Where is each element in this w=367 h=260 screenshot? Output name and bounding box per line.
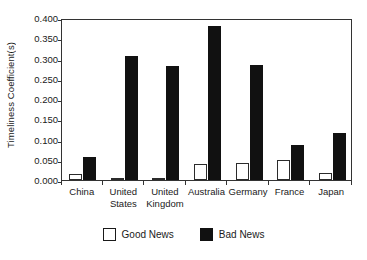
x-axis-tick-mark <box>61 181 62 185</box>
y-axis-tick-label: 0.150 <box>18 116 58 126</box>
bar-good-news <box>152 178 165 180</box>
y-axis-title-text: Timeliness Coefficient(s) <box>5 42 16 148</box>
legend-entry: Bad News <box>200 228 265 241</box>
x-axis-category-label: UnitedStates <box>103 186 145 209</box>
plot-inner <box>62 20 351 180</box>
x-axis-tick-mark <box>268 181 269 185</box>
bar-bad-news <box>250 65 263 180</box>
y-axis-tick-label: 0.200 <box>18 95 58 105</box>
plot-area <box>61 19 352 181</box>
bar-good-news <box>236 163 249 180</box>
y-axis-tick-label: 0.000 <box>18 176 58 186</box>
x-axis-category-label: Australia <box>186 186 228 198</box>
bar-group <box>187 20 229 180</box>
y-axis-tick-label: 0.100 <box>18 136 58 146</box>
bar-bad-news <box>208 26 221 180</box>
x-axis-label-line: United <box>103 186 145 198</box>
bar-good-news <box>69 174 82 180</box>
bar-good-news <box>194 164 207 180</box>
x-axis-category-label: UnitedKingdom <box>144 186 186 209</box>
x-axis-tick-mark <box>226 181 227 185</box>
y-axis-tick-label: 0.250 <box>18 75 58 85</box>
legend-swatch-good <box>103 228 116 241</box>
bar-good-news <box>111 178 124 180</box>
x-axis-tick-mark <box>309 181 310 185</box>
bar-bad-news <box>83 157 96 180</box>
x-axis-category-label: China <box>61 186 103 198</box>
bar-good-news <box>319 173 332 180</box>
x-axis-category-labels: ChinaUnitedStatesUnitedKingdomAustraliaG… <box>61 186 352 218</box>
bar-group <box>270 20 312 180</box>
y-axis-tick-labels: 0.0000.0500.1000.1500.2000.2500.3000.350… <box>18 19 58 181</box>
legend-label: Bad News <box>219 229 265 240</box>
legend-entry: Good News <box>103 228 174 241</box>
x-axis-label-line: Australia <box>186 186 228 198</box>
bar-group <box>228 20 270 180</box>
x-axis-label-line: United <box>144 186 186 198</box>
x-axis-label-line: France <box>269 186 311 198</box>
chart-legend: Good NewsBad News <box>0 228 367 241</box>
y-axis-tick-label: 0.350 <box>18 35 58 45</box>
x-axis-category-label: France <box>269 186 311 198</box>
bar-bad-news <box>291 145 304 180</box>
y-axis-tick-label: 0.400 <box>18 14 58 24</box>
y-axis-tick-label: 0.050 <box>18 156 58 166</box>
bar-chart-figure: Timeliness Coefficient(s) 0.0000.0500.10… <box>0 0 367 260</box>
x-axis-category-label: Germany <box>227 186 269 198</box>
y-axis-title: Timeliness Coefficient(s) <box>0 0 20 190</box>
x-axis-tick-mark <box>143 181 144 185</box>
x-axis-label-line: Kingdom <box>144 198 186 210</box>
x-axis-tick-marks <box>61 181 352 185</box>
y-axis-tick-label: 0.300 <box>18 55 58 65</box>
bar-bad-news <box>125 56 138 180</box>
x-axis-label-line: China <box>61 186 103 198</box>
x-axis-label-line: States <box>103 198 145 210</box>
bar-group <box>311 20 353 180</box>
bar-group <box>104 20 146 180</box>
bar-good-news <box>277 160 290 180</box>
x-axis-label-line: Germany <box>227 186 269 198</box>
legend-label: Good News <box>122 229 174 240</box>
legend-swatch-bad <box>200 228 213 241</box>
x-axis-category-label: Japan <box>310 186 352 198</box>
bar-group <box>62 20 104 180</box>
bar-bad-news <box>333 133 346 180</box>
x-axis-tick-mark <box>185 181 186 185</box>
bar-bad-news <box>166 66 179 180</box>
bar-group <box>145 20 187 180</box>
x-axis-tick-mark <box>102 181 103 185</box>
x-axis-label-line: Japan <box>310 186 352 198</box>
x-axis-tick-mark <box>351 181 352 185</box>
